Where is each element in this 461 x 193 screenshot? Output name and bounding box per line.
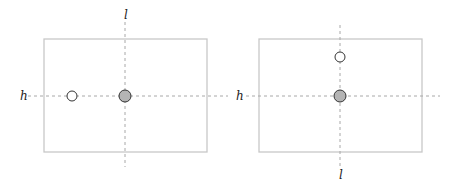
hollow-point-marker (67, 91, 77, 101)
filled-point-marker (119, 90, 131, 102)
l-axis-label: l (339, 168, 343, 182)
h-axis-label: h (20, 89, 28, 103)
diagram-canvas: hlhl (0, 0, 461, 193)
hollow-point-marker (335, 52, 345, 62)
panel-right: hl (236, 25, 440, 182)
filled-point-marker (334, 90, 346, 102)
panel-left: hl (20, 8, 228, 167)
l-axis-label: l (124, 8, 128, 22)
h-axis-label: h (236, 89, 244, 103)
